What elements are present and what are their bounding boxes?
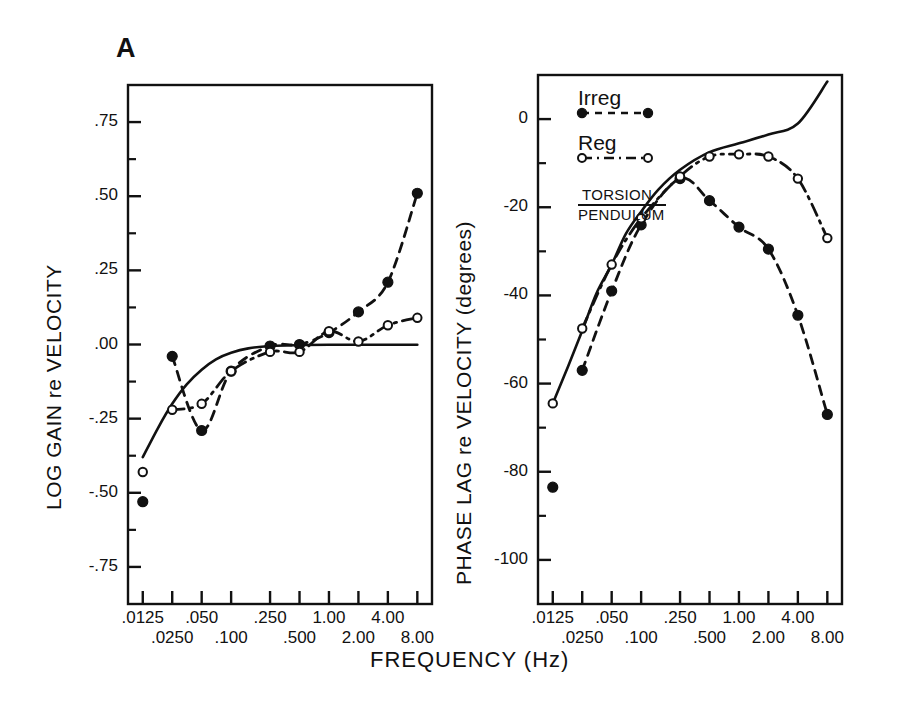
left-panel-y-axis-title: LOG GAIN re VELOCITY (42, 264, 66, 510)
data-point-irreg (548, 482, 558, 492)
x-tick-label: .100 (198, 628, 264, 648)
y-tick-label: -.50 (62, 482, 118, 502)
series-line-torsion-pendulum (143, 345, 418, 457)
x-tick-label: 4.00 (765, 608, 831, 628)
y-tick-label: .50 (62, 185, 118, 205)
data-point-reg (295, 348, 303, 356)
y-tick-label: -80 (472, 461, 528, 481)
figure-root: A LOG GAIN re VELOCITY PHASE LAG re VELO… (0, 0, 903, 724)
x-tick-label: .050 (579, 608, 645, 628)
x-tick-label: .050 (169, 608, 235, 628)
x-tick-label: 8.00 (794, 628, 860, 648)
data-point-reg (794, 174, 802, 182)
data-point-irreg (793, 310, 803, 320)
series-line-irreg (172, 193, 417, 430)
x-tick-label: .0125 (110, 608, 176, 628)
data-point-reg (384, 321, 392, 329)
x-tick-label: 1.00 (296, 608, 362, 628)
x-tick-label: .250 (647, 608, 713, 628)
data-point-irreg (138, 497, 148, 507)
data-point-irreg (705, 196, 715, 206)
legend-sample-marker (578, 154, 586, 162)
right-panel-y-axis-title: PHASE LAG re VELOCITY (degrees) (452, 221, 476, 585)
x-tick-label: .100 (608, 628, 674, 648)
data-point-reg (607, 260, 615, 268)
data-point-irreg (167, 351, 177, 361)
x-tick-label: .0250 (139, 628, 205, 648)
data-point-reg (764, 152, 772, 160)
data-point-reg (227, 367, 235, 375)
x-tick-label: 1.00 (706, 608, 772, 628)
legend-label-reg: Reg (578, 131, 617, 155)
data-point-irreg (734, 222, 744, 232)
data-point-reg (325, 327, 333, 335)
data-point-irreg (577, 365, 587, 375)
data-point-reg (354, 337, 362, 345)
data-point-irreg (607, 286, 617, 296)
x-tick-label: 4.00 (355, 608, 421, 628)
x-tick-label: .0125 (520, 608, 586, 628)
data-point-reg (823, 234, 831, 242)
panel-letter: A (116, 33, 136, 64)
x-axis-title: FREQUENCY (Hz) (370, 647, 569, 673)
legend-label-pendulum: PENDULUM (578, 206, 665, 223)
x-tick-label: .0250 (549, 628, 615, 648)
y-tick-label: .25 (62, 259, 118, 279)
data-point-reg (197, 400, 205, 408)
legend-sample-marker (644, 154, 652, 162)
series-line-torsion-pendulum (553, 82, 828, 404)
x-tick-label: .500 (677, 628, 743, 648)
y-tick-label: -20 (472, 196, 528, 216)
y-tick-label: .00 (62, 334, 118, 354)
y-tick-label: .75 (62, 111, 118, 131)
x-tick-label: 2.00 (325, 628, 391, 648)
left-panel-plot-area (128, 85, 432, 604)
data-point-reg (549, 399, 557, 407)
data-point-reg (168, 406, 176, 414)
data-point-reg (578, 324, 586, 332)
y-tick-label: -60 (472, 373, 528, 393)
data-point-irreg (822, 409, 832, 419)
series-line-reg (582, 154, 827, 329)
legend-label-irreg: Irreg (578, 86, 621, 110)
data-point-irreg (383, 277, 393, 287)
data-point-irreg (197, 426, 207, 436)
y-tick-label: -100 (472, 549, 528, 569)
data-point-reg (139, 468, 147, 476)
y-tick-label: -40 (472, 284, 528, 304)
y-tick-label: -.25 (62, 408, 118, 428)
y-tick-label: -.75 (62, 556, 118, 576)
x-tick-label: 2.00 (735, 628, 801, 648)
legend-label-torsion: TORSION (582, 186, 652, 203)
x-tick-label: .500 (267, 628, 333, 648)
data-point-reg (735, 150, 743, 158)
data-point-irreg (763, 244, 773, 254)
x-tick-label: 8.00 (384, 628, 450, 648)
legend-sample-marker (643, 108, 652, 117)
data-point-reg (413, 314, 421, 322)
data-point-irreg (412, 188, 422, 198)
data-point-reg (266, 348, 274, 356)
data-point-reg (705, 152, 713, 160)
data-point-irreg (353, 307, 363, 317)
data-point-reg (676, 172, 684, 180)
x-tick-label: .250 (237, 608, 303, 628)
y-tick-label: 0 (472, 108, 528, 128)
